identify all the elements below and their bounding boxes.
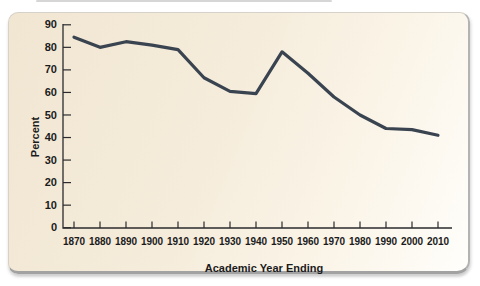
data-line [74, 37, 438, 135]
y-tick-label: 60 [45, 86, 57, 98]
x-tick-label: 1900 [141, 236, 164, 247]
y-tick-label: 50 [45, 109, 57, 121]
x-tick-label: 1880 [89, 236, 112, 247]
y-tick-label: 0 [51, 221, 57, 233]
x-tick-label: 2000 [401, 236, 424, 247]
y-tick-label: 70 [45, 63, 57, 75]
x-tick-label: 1930 [219, 236, 242, 247]
y-tick-label: 80 [45, 41, 57, 53]
y-tick-label: 10 [45, 199, 57, 211]
x-tick-label: 2010 [427, 236, 450, 247]
x-tick-label: 1920 [193, 236, 216, 247]
x-tick-label: 1890 [115, 236, 138, 247]
x-tick-label: 1990 [375, 236, 398, 247]
x-tick-label: 1910 [167, 236, 190, 247]
x-tick-label: 1980 [349, 236, 372, 247]
y-tick-label: 30 [45, 154, 57, 166]
line-chart: 0102030405060708090187018801890190019101… [0, 0, 480, 286]
axes-line [63, 24, 452, 228]
x-tick-label: 1970 [323, 236, 346, 247]
x-tick-label: 1870 [63, 236, 86, 247]
x-tick-label: 1940 [245, 236, 268, 247]
y-tick-label: 40 [45, 131, 57, 143]
x-tick-label: 1960 [297, 236, 320, 247]
x-tick-label: 1950 [271, 236, 294, 247]
y-tick-label: 20 [45, 176, 57, 188]
y-tick-label: 90 [45, 18, 57, 30]
